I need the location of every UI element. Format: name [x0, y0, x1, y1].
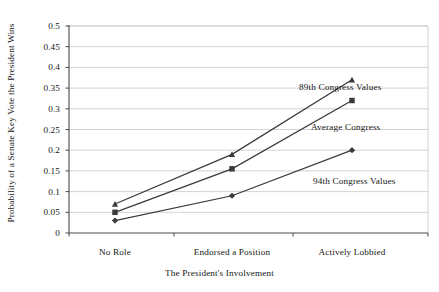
data-point-square: [112, 210, 117, 215]
x-tick-label: Endorsed a Position: [194, 247, 270, 257]
data-point-square: [349, 98, 354, 103]
data-point-square: [229, 166, 234, 171]
chart-figure: Probability of a Senate Key Vote the Pre…: [0, 0, 439, 292]
x-axis-title: The President's Involvement: [0, 268, 439, 278]
series-label: 89th Congress Values: [299, 82, 381, 92]
x-tick-label: No Role: [99, 247, 131, 257]
series-label: Average Congress: [311, 122, 380, 132]
series-label: 94th Congress Values: [313, 176, 395, 186]
x-tick-label: Actively Lobbied: [319, 247, 386, 257]
